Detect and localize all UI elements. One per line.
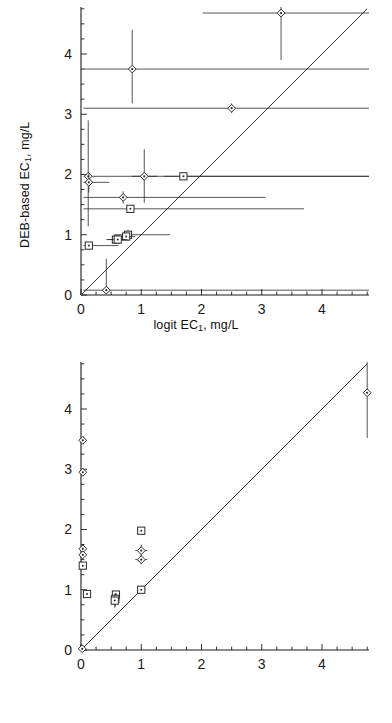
x-axis-tick-label: 1 [137, 656, 145, 672]
marker-diamond-center [105, 289, 107, 291]
x-axis-tick-label: 2 [198, 301, 206, 317]
marker-square-center [88, 245, 90, 247]
data-point [111, 595, 118, 608]
identity-reference-line [81, 364, 367, 650]
y-axis-tick-label: 4 [64, 401, 72, 417]
marker-diamond-center [366, 392, 368, 394]
data-point [164, 173, 369, 180]
marker-square-center [140, 589, 142, 591]
scatter-plot-logit-vs-deb: 0123401234 [0, 0, 392, 352]
y-axis-tick-label: 2 [64, 521, 72, 537]
data-point [135, 555, 147, 565]
x-axis-tick-label: 0 [77, 301, 85, 317]
x-axis-tick-label: 0 [77, 656, 85, 672]
y-axis-tick-label: 0 [64, 642, 72, 658]
figure-two-scatter-panels: 0123401234 logit EC1, mg/L DEB-based EC1… [0, 0, 392, 723]
data-point [79, 436, 87, 444]
marker-diamond-center [82, 554, 84, 556]
data-point [363, 362, 371, 438]
marker-square-center [129, 208, 131, 210]
x-axis-tick-label: 4 [318, 656, 326, 672]
data-point [83, 590, 90, 597]
x-axis-tick-label: 1 [137, 301, 145, 317]
marker-square-center [82, 565, 84, 567]
data-point [138, 527, 145, 534]
y-axis-tick-label: 3 [64, 461, 72, 477]
marker-diamond-center [82, 548, 84, 550]
x-axis-tick-label: 3 [258, 656, 266, 672]
marker-diamond-center [81, 648, 83, 650]
data-point [83, 120, 369, 226]
data-point [132, 149, 157, 203]
x-axis-title-top-pre: logit EC [153, 318, 198, 332]
data-point [83, 205, 304, 212]
chart-panel-top: 0123401234 logit EC1, mg/L DEB-based EC1… [0, 0, 392, 352]
identity-reference-line [81, 9, 367, 295]
data-point [137, 586, 145, 593]
y-axis-tick-label: 3 [64, 106, 72, 122]
marker-diamond-center [140, 559, 142, 561]
y-axis-title-top: DEB-based EC1, mg/L [18, 122, 32, 248]
axes-group: 0123401234 [64, 362, 369, 672]
marker-diamond-center [82, 439, 84, 441]
marker-square-center [117, 239, 119, 241]
x-axis-tick-label: 2 [198, 656, 206, 672]
marker-square-center [140, 530, 142, 532]
scatter-plot-noec-vs-nec: 0123401234 [0, 355, 392, 723]
y-axis-title-top-pre: DEB-based EC [18, 162, 32, 248]
marker-square-center [86, 593, 88, 595]
marker-diamond-center [122, 196, 124, 198]
data-point [83, 103, 369, 113]
marker-diamond-center [280, 12, 282, 14]
x-axis-tick-label: 3 [258, 301, 266, 317]
chart-panel-bottom: 0123401234 NOEC, mg/L NEC, mg/L [0, 355, 392, 723]
data-point [83, 30, 369, 104]
marker-square-center [125, 236, 127, 238]
data-point [203, 7, 369, 60]
y-axis-tick-label: 4 [64, 46, 72, 62]
marker-square-center [182, 175, 184, 177]
y-axis-tick-label: 1 [64, 227, 72, 243]
y-axis-title-top-sub: 1 [23, 157, 33, 162]
x-axis-title-top: logit EC1, mg/L [0, 318, 392, 332]
y-axis-tick-label: 1 [64, 582, 72, 598]
y-axis-tick-label: 0 [64, 287, 72, 303]
x-axis-title-top-post: , mg/L [203, 318, 238, 332]
x-axis-tick-label: 4 [318, 301, 326, 317]
data-point [83, 259, 369, 294]
marker-diamond-center [231, 107, 233, 109]
marker-diamond-center [82, 471, 84, 473]
data-point [79, 562, 86, 569]
marker-diamond-center [88, 181, 90, 183]
axes-group: 0123401234 [64, 7, 369, 317]
marker-diamond-center [140, 549, 142, 551]
marker-diamond-center [131, 68, 133, 70]
data-point [79, 551, 87, 559]
y-axis-tick-label: 2 [64, 166, 72, 182]
marker-square-center [114, 600, 116, 602]
y-axis-title-top-post: , mg/L [18, 122, 32, 157]
marker-diamond-center [143, 175, 145, 177]
